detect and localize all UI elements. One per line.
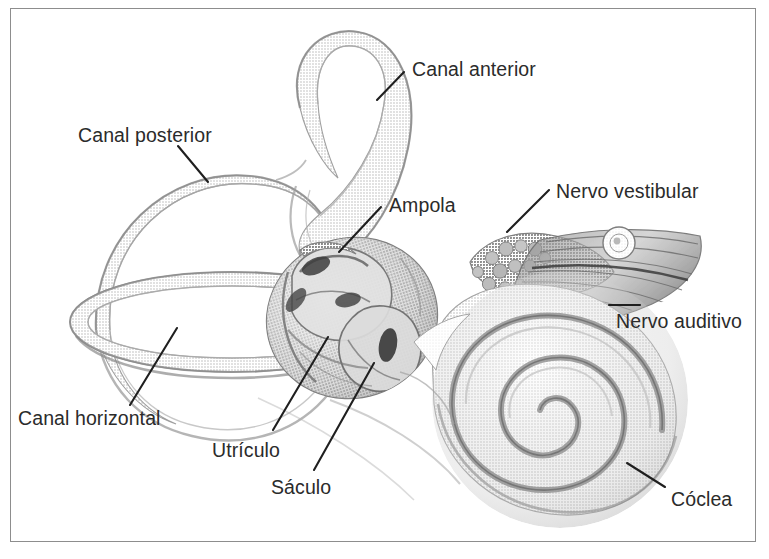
leader-nervo-vestibular bbox=[507, 190, 549, 232]
label-canal-posterior: Canal posterior bbox=[78, 126, 212, 146]
label-utriculo: Utrículo bbox=[212, 441, 280, 461]
label-canal-anterior: Canal anterior bbox=[412, 60, 536, 80]
inner-ear-diagram bbox=[0, 0, 769, 559]
label-saculo: Sáculo bbox=[271, 478, 331, 498]
leader-canal-posterior bbox=[178, 146, 208, 182]
label-coclea: Cóclea bbox=[671, 490, 732, 510]
label-nervo-vestibular: Nervo vestibular bbox=[556, 182, 699, 202]
label-ampola: Ampola bbox=[389, 196, 456, 216]
label-canal-horizontal: Canal horizontal bbox=[18, 409, 161, 429]
vestibule-body bbox=[245, 215, 458, 420]
label-nervo-auditivo: Nervo auditivo bbox=[616, 312, 742, 332]
figure-root: Canal anteriorCanal posteriorNervo vesti… bbox=[0, 0, 769, 559]
